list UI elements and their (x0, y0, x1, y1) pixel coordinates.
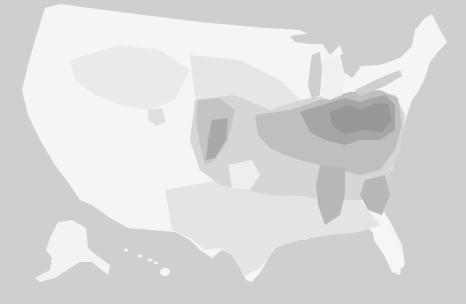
us-choropleth-map (0, 0, 466, 304)
map-canvas (0, 0, 466, 304)
